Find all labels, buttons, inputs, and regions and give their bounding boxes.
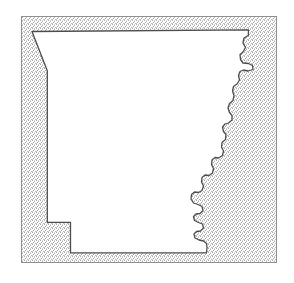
map-figure: Arkansas state outline map: [0, 0, 294, 283]
state-outline-map-svg: [0, 0, 294, 283]
